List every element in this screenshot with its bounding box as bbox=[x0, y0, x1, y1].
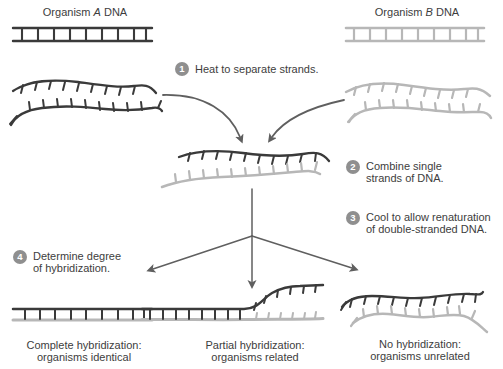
step-3-line-1: Cool to allow renaturation bbox=[366, 211, 491, 223]
organism-b-prefix: Organism bbox=[375, 6, 426, 18]
organism-a-single-strands bbox=[10, 81, 162, 125]
result-none-label: No hybridization: organisms unrelated bbox=[345, 338, 495, 362]
result-complete-label: Complete hybridization: organisms identi… bbox=[9, 339, 159, 363]
combined-single-strands bbox=[162, 151, 329, 187]
step-2-line-1: Combine single bbox=[366, 160, 444, 172]
dna-hybridization-diagram: Organism A DNA Organism B DNA 1 Heat to … bbox=[0, 0, 503, 369]
organism-b-single-strands bbox=[346, 83, 491, 122]
organism-a-dna-ladder bbox=[13, 28, 152, 41]
result-complete-line-2: organisms identical bbox=[9, 351, 159, 363]
organism-a-label: Organism A DNA bbox=[20, 6, 150, 18]
step-3-line-2: of double-stranded DNA. bbox=[366, 223, 491, 235]
organism-a-suffix: DNA bbox=[101, 6, 127, 18]
complete-hybridization-ladder bbox=[13, 309, 152, 320]
organism-a-letter: A bbox=[94, 6, 101, 18]
step-4-label: Determine degree of hybridization. bbox=[33, 250, 121, 274]
organism-b-suffix: DNA bbox=[433, 6, 459, 18]
result-none-line-2: organisms unrelated bbox=[345, 350, 495, 362]
converge-arrow-from-b-icon bbox=[272, 100, 344, 137]
step-4-badge: 4 bbox=[13, 250, 27, 264]
no-hybridization-strands bbox=[341, 292, 487, 332]
step-3-number: 3 bbox=[350, 212, 355, 223]
partial-hybridization-structure bbox=[142, 285, 323, 320]
result-partial-line-1: Partial hybridization: bbox=[180, 339, 330, 351]
result-complete-line-1: Complete hybridization: bbox=[9, 339, 159, 351]
step-3-badge: 3 bbox=[346, 211, 360, 225]
result-partial-label: Partial hybridization: organisms related bbox=[180, 339, 330, 363]
step-2-badge: 2 bbox=[346, 160, 360, 174]
organism-a-prefix: Organism bbox=[43, 6, 94, 18]
step-4-line-1: Determine degree bbox=[33, 250, 121, 262]
step-1-number: 1 bbox=[179, 63, 184, 74]
result-partial-line-2: organisms related bbox=[180, 351, 330, 363]
diagram-graphics bbox=[0, 0, 503, 369]
result-none-line-1: No hybridization: bbox=[345, 338, 495, 350]
step-2-number: 2 bbox=[350, 161, 355, 172]
converge-arrow-from-a-icon bbox=[163, 95, 240, 137]
step-2-line-2: strands of DNA. bbox=[366, 172, 444, 184]
step-2-label: Combine single strands of DNA. bbox=[366, 160, 444, 184]
step-4-number: 4 bbox=[17, 251, 22, 262]
fan-arrows-icon bbox=[153, 189, 352, 282]
step-1-label: Heat to separate strands. bbox=[195, 63, 319, 75]
step-1-badge: 1 bbox=[175, 62, 189, 76]
step-1-line-1: Heat to separate strands. bbox=[195, 63, 319, 75]
organism-b-label: Organism B DNA bbox=[352, 6, 482, 18]
organism-b-letter: B bbox=[426, 6, 433, 18]
step-3-label: Cool to allow renaturation of double-str… bbox=[366, 211, 491, 235]
step-4-line-2: of hybridization. bbox=[33, 262, 121, 274]
organism-b-dna-ladder bbox=[346, 28, 484, 41]
